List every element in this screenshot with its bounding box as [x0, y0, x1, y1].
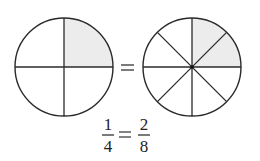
equation-equals: [119, 132, 131, 137]
equals-sign: [121, 65, 134, 70]
right-denominator: 8: [140, 137, 149, 156]
equivalent-fractions-diagram: 1 4 2 8: [0, 0, 260, 161]
left-numerator: 1: [104, 115, 113, 134]
fraction-equation: 1 4 2 8: [102, 115, 150, 156]
circle-quarters: [15, 18, 113, 116]
circle-eighths: [143, 18, 241, 116]
right-numerator: 2: [140, 115, 149, 134]
left-denominator: 4: [104, 137, 113, 156]
